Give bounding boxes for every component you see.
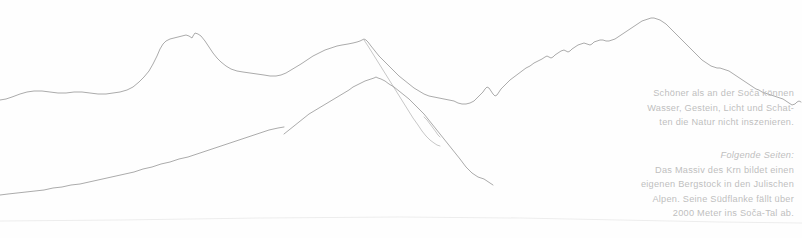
caption-primary-line-3: ten die Natur nicht inszenieren. — [647, 115, 794, 130]
caption-secondary-line-4: 2000 Meter ins Soča-Tal ab. — [641, 206, 794, 221]
caption-secondary-heading: Folgende Seiten: — [641, 148, 794, 163]
caption-secondary: Folgende Seiten: Das Massiv des Krn bild… — [641, 148, 794, 221]
caption-primary-line-1: Schöner als an der Soča können — [647, 86, 794, 101]
page-canvas: Schöner als an der Soča können Wasser, G… — [0, 0, 802, 238]
valley-cleft-path — [424, 117, 440, 137]
caption-secondary-line-2: eigenen Bergstock in den Julischen — [641, 177, 794, 192]
caption-secondary-line-1: Das Massiv des Krn bildet einen — [641, 163, 794, 178]
caption-primary: Schöner als an der Soča können Wasser, G… — [647, 86, 794, 130]
foreground-peak-path — [284, 77, 493, 185]
foreground-left-slope-path — [0, 127, 284, 195]
caption-primary-line-2: Wasser, Gestein, Licht und Schat- — [647, 101, 794, 116]
caption-secondary-line-3: Alpen. Seine Südflanke fällt über — [641, 192, 794, 207]
